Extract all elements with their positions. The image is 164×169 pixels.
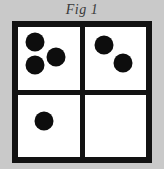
quadrant-bottom-left: [18, 95, 80, 158]
dot-bottom-left-1: [35, 111, 54, 130]
dot-top-left-1: [26, 33, 45, 52]
figure-grid-frame: [12, 21, 152, 163]
figure-container: Fig 1: [0, 0, 164, 169]
dot-top-left-3: [47, 48, 66, 67]
figure-caption: Fig 1: [0, 0, 164, 20]
quadrant-top-left: [18, 27, 80, 90]
dot-top-right-1: [95, 35, 114, 54]
dot-top-right-2: [114, 53, 133, 72]
quadrant-bottom-right: [85, 95, 147, 158]
dot-top-left-2: [25, 55, 44, 74]
figure-grid: [18, 27, 146, 157]
quadrant-top-right: [85, 27, 147, 90]
